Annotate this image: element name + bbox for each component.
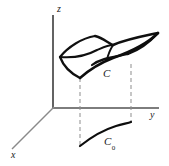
curve-c0-base: C [104,135,111,147]
curve-c0-subscript: 0 [112,144,116,152]
y-axis-label: y [150,110,154,120]
curve-C-path [80,33,158,78]
x-axis [12,107,54,149]
axes-group [12,15,159,149]
surface-edge-front-left [60,57,80,78]
z-axis-label: z [57,4,61,14]
surface-edge-rear-mid [95,36,113,45]
math-figure: z y x C C0 [0,0,169,166]
surface-fold-crease [60,45,113,57]
x-axis-label: x [11,150,15,160]
figure-canvas [0,0,169,166]
curve-c0-label: C0 [104,136,115,150]
curve-c-label: C [103,68,110,79]
